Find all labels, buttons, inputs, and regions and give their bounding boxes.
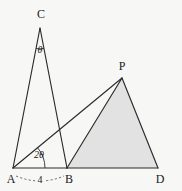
length-label-ab: 4 bbox=[36, 175, 45, 185]
figure-canvas bbox=[0, 0, 182, 191]
segment-ac bbox=[13, 28, 40, 168]
geometry-figure: C P A B D θ 2θ 4 bbox=[0, 0, 182, 191]
vertex-label-c: C bbox=[37, 8, 45, 20]
vertex-label-b: B bbox=[65, 173, 73, 185]
angle-label-two-theta: 2θ bbox=[34, 150, 44, 160]
angle-label-theta: θ bbox=[38, 45, 43, 55]
vertex-label-a: A bbox=[7, 173, 16, 185]
segment-cb bbox=[40, 28, 67, 168]
shaded-triangle-bpd bbox=[67, 78, 158, 168]
vertex-label-p: P bbox=[119, 60, 126, 72]
vertex-label-d: D bbox=[156, 173, 165, 185]
